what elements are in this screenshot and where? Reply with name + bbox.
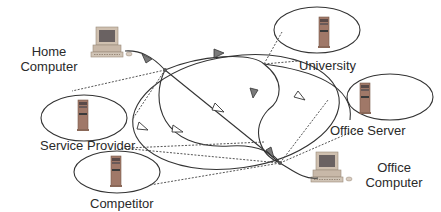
- university-server-icon: [318, 17, 330, 48]
- router-hub-1: [163, 68, 167, 72]
- router-hub-2: [278, 161, 282, 165]
- hollow-arrowheads: [137, 91, 305, 132]
- office-server-icon: [359, 83, 371, 114]
- university-label: University: [299, 58, 356, 73]
- office-computer-label: Office Computer: [363, 160, 425, 190]
- home-computer-label-line2: Computer: [20, 59, 78, 74]
- home-computer-label-line1: Home: [20, 44, 78, 59]
- competitor-label: Competitor: [90, 196, 154, 211]
- inner-loop-left: [159, 70, 280, 163]
- office-computer-icon: [311, 152, 352, 182]
- service-provider-server-icon: [77, 100, 89, 131]
- home-computer-icon: [91, 27, 132, 57]
- office-link: [280, 163, 318, 178]
- home-computer-label: Home Computer: [20, 44, 78, 74]
- office-server-label: Office Server: [330, 123, 406, 138]
- university-domain-ellipse: [274, 7, 360, 53]
- office-computer-label-line1: Office: [363, 160, 425, 175]
- office-computer-label-line2: Computer: [363, 175, 425, 190]
- service-provider-label: Service Provider: [40, 138, 135, 153]
- competitor-server-icon: [110, 156, 122, 187]
